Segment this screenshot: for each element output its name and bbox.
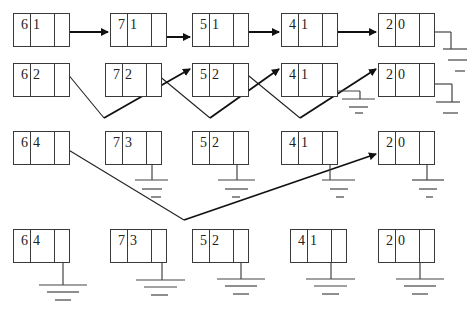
node-pointer-cell [55,64,69,96]
node-pointer-cell [234,230,248,262]
node-key-cell: 4 [282,132,299,164]
list-node: 64 [13,131,70,165]
node-key-cell: 4 [291,230,308,262]
node-pointer-cell [234,64,248,96]
node-key: 5 [200,234,207,248]
node-key: 5 [200,68,207,82]
node-key: 4 [289,136,296,150]
node-value-cell: 1 [128,14,152,46]
node-key-cell: 5 [193,64,210,96]
node-value: 0 [398,68,405,82]
node-value-cell: 1 [299,14,323,46]
node-key: 2 [386,68,393,82]
node-value: 0 [398,234,405,248]
node-pointer-cell [420,64,434,96]
node-value: 3 [130,234,137,248]
node-value-cell: 0 [396,64,420,96]
node-key-cell: 4 [282,64,299,96]
node-pointer-cell [420,132,434,164]
node-key-cell: 6 [14,64,31,96]
node-pointer-cell [55,14,69,46]
node-value: 1 [33,18,40,32]
node-key: 6 [21,18,28,32]
list-node: 20 [378,63,435,97]
list-node: 52 [192,63,249,97]
node-pointer-cell [152,14,166,46]
node-value: 1 [301,68,308,82]
node-value-cell: 2 [123,64,147,96]
list-node: 61 [13,13,70,47]
node-key-cell: 6 [14,230,31,262]
list-node: 20 [378,131,435,165]
node-value: 1 [301,18,308,32]
node-value: 1 [212,18,219,32]
node-key-cell: 7 [111,230,128,262]
node-value-cell: 3 [128,230,152,262]
node-key: 4 [289,18,296,32]
node-value-cell: 3 [123,132,147,164]
node-value-cell: 1 [299,132,323,164]
node-value: 2 [212,68,219,82]
node-pointer-cell [323,64,337,96]
node-key: 7 [113,136,120,150]
node-pointer-cell [420,230,434,262]
node-value: 2 [212,136,219,150]
node-key-cell: 7 [106,64,123,96]
row1-ground-icon [435,32,467,71]
node-pointer-cell [147,132,161,164]
node-value: 2 [125,68,132,82]
list-node: 71 [110,13,167,47]
node-key-cell: 2 [379,14,396,46]
list-node: 73 [105,131,162,165]
node-key: 6 [21,234,28,248]
list-node: 73 [110,229,167,263]
node-value: 1 [310,234,317,248]
list-node: 72 [105,63,162,97]
node-value: 3 [125,136,132,150]
node-value-cell: 1 [308,230,332,262]
list-node: 51 [192,13,249,47]
node-value-cell: 2 [31,64,55,96]
node-key: 5 [200,18,207,32]
node-key: 6 [21,68,28,82]
node-value-cell: 1 [299,64,323,96]
node-pointer-cell [152,230,166,262]
node-key-cell: 2 [379,132,396,164]
node-key-cell: 6 [14,132,31,164]
node-value: 4 [33,136,40,150]
node-key-cell: 7 [106,132,123,164]
node-value-cell: 1 [31,14,55,46]
node-key: 6 [21,136,28,150]
list-node: 62 [13,63,70,97]
node-pointer-cell [323,14,337,46]
node-value-cell: 4 [31,132,55,164]
node-key: 2 [386,234,393,248]
node-pointer-cell [234,132,248,164]
node-key-cell: 6 [14,14,31,46]
node-value: 2 [212,234,219,248]
node-pointer-cell [55,230,69,262]
node-pointer-cell [147,64,161,96]
node-key-cell: 7 [111,14,128,46]
node-value-cell: 0 [396,230,420,262]
linked-list-diagram: 6171514120627252412064735241206473524120 [0,0,476,312]
list-node: 41 [281,63,338,97]
node-value: 1 [301,136,308,150]
list-node: 52 [192,131,249,165]
node-key: 7 [118,234,125,248]
node-key-cell: 5 [193,132,210,164]
list-node: 41 [290,229,347,263]
node-value-cell: 4 [31,230,55,262]
list-node: 41 [281,13,338,47]
node-value-cell: 2 [210,64,234,96]
list-node: 20 [378,13,435,47]
node-value: 1 [130,18,137,32]
node-value: 4 [33,234,40,248]
node-key: 4 [289,68,296,82]
node-key-cell: 5 [193,230,210,262]
node-key: 7 [118,18,125,32]
node-pointer-cell [55,132,69,164]
node-value: 0 [398,136,405,150]
node-value-cell: 2 [210,230,234,262]
node-key-cell: 2 [379,230,396,262]
